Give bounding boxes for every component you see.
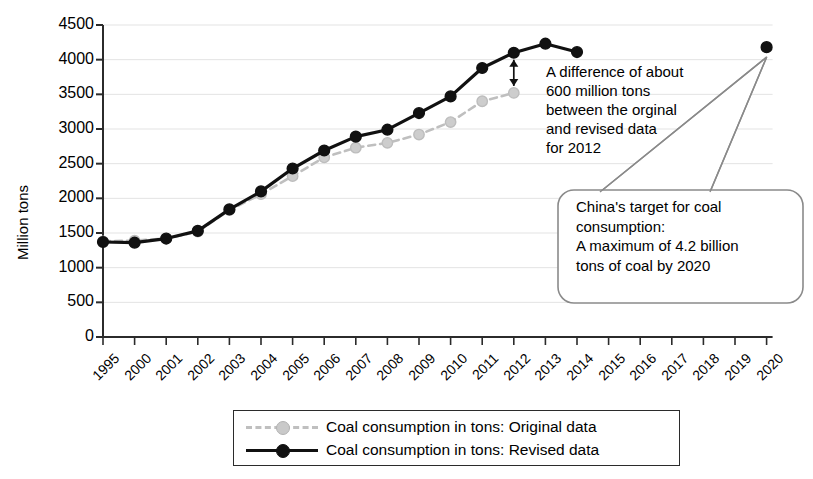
legend-swatch-revised [246, 442, 318, 458]
y-tick-label: 2000 [30, 188, 94, 206]
target-callout-text: China's target for coal consumption: A m… [576, 197, 739, 275]
data-point-0 [477, 96, 487, 106]
y-tick-label: 2500 [30, 154, 94, 172]
data-point-0 [445, 117, 455, 127]
data-point-1 [98, 237, 109, 248]
y-axis-title: Million tons [14, 185, 31, 260]
data-point-1 [477, 63, 488, 74]
data-point-1 [256, 186, 267, 197]
arrow-head-up [509, 60, 518, 67]
data-point-0 [414, 129, 424, 139]
data-point-0 [382, 138, 392, 148]
data-point-1 [572, 47, 583, 58]
y-tick-label: 0 [30, 327, 94, 345]
data-point-1 [350, 131, 361, 142]
y-tick-label: 1000 [30, 258, 94, 276]
series-line-0 [103, 93, 514, 241]
y-tick-label: 1500 [30, 223, 94, 241]
data-point-1 [414, 108, 425, 119]
y-tick-label: 500 [30, 292, 94, 310]
data-point-1 [129, 237, 140, 248]
data-point-1 [540, 38, 551, 49]
data-point-0 [509, 88, 519, 98]
series-line-1 [103, 44, 577, 243]
data-point-1 [192, 226, 203, 237]
y-tick-label: 3500 [30, 84, 94, 102]
data-point-1 [382, 124, 393, 135]
data-point-1 [508, 47, 519, 58]
difference-arrow [509, 60, 518, 86]
y-tick-label: 4000 [30, 50, 94, 68]
difference-annotation-text: A difference of about 600 million tons b… [546, 62, 683, 157]
y-tick-label: 3000 [30, 119, 94, 137]
data-point-1 [319, 145, 330, 156]
arrow-head-down [509, 79, 518, 86]
data-point-1 [445, 91, 456, 102]
legend-item-revised[interactable]: Coal consumption in tons: Revised data [246, 441, 599, 459]
data-point-2 [761, 42, 772, 53]
data-point-1 [161, 233, 172, 244]
data-point-1 [287, 163, 298, 174]
y-tick-label: 4500 [30, 15, 94, 33]
data-point-0 [351, 143, 361, 153]
legend-label-revised: Coal consumption in tons: Revised data [326, 441, 599, 459]
data-point-1 [224, 204, 235, 215]
coal-consumption-chart: Million tons A difference of about 600 m… [0, 0, 813, 479]
